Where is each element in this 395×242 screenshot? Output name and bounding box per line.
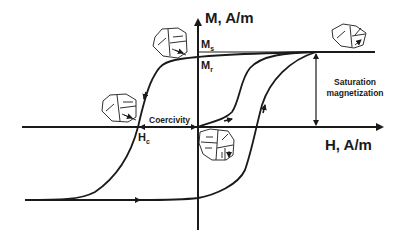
coercivity-label: Coercivity: [149, 115, 190, 126]
domain-icon-upper-left: [153, 28, 187, 58]
hysteresis-diagram: [0, 0, 395, 242]
m-axis-label: M, A/m: [205, 9, 254, 26]
mr-label: Mr: [201, 59, 213, 73]
saturation-label: Saturation magnetization: [320, 77, 390, 99]
domain-icon-left: [102, 94, 136, 122]
initial-magnetization-curve: [198, 52, 316, 127]
domain-icon-upper-right: [332, 24, 366, 48]
hc-label: Hc: [138, 131, 150, 145]
domain-icon-origin: [199, 129, 234, 160]
h-axis-label: H, A/m: [325, 136, 372, 153]
direction-arrow-lower-right: [263, 105, 265, 113]
direction-arrow-initial: [224, 119, 232, 121]
ms-label: Ms: [201, 38, 214, 52]
